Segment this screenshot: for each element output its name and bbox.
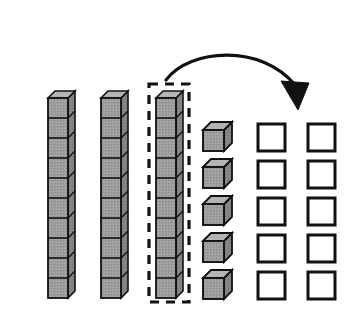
unit-cube-1[interactable] bbox=[203, 122, 232, 151]
ten-rod-2[interactable] bbox=[101, 91, 128, 298]
cube-front-face bbox=[203, 130, 224, 151]
empty-square[interactable] bbox=[258, 161, 285, 188]
ten-rod-1[interactable] bbox=[48, 91, 75, 298]
empty-square[interactable] bbox=[308, 272, 335, 299]
unit-cube-4[interactable] bbox=[203, 233, 232, 262]
cube-front-face bbox=[203, 278, 224, 299]
empty-square[interactable] bbox=[308, 198, 335, 225]
empty-square[interactable] bbox=[258, 235, 285, 262]
cube-front-face bbox=[203, 241, 224, 262]
unit-cube-5[interactable] bbox=[203, 270, 232, 299]
empty-square[interactable] bbox=[308, 124, 335, 151]
unit-cube-3[interactable] bbox=[203, 196, 232, 225]
empty-square[interactable] bbox=[308, 235, 335, 262]
cube-front-face bbox=[203, 167, 224, 188]
empty-squares-column-2 bbox=[308, 124, 335, 299]
cube-front-face bbox=[203, 204, 224, 225]
ten-rod-3-selected[interactable] bbox=[156, 91, 183, 298]
empty-square[interactable] bbox=[258, 198, 285, 225]
unit-cube-2[interactable] bbox=[203, 159, 232, 188]
empty-square[interactable] bbox=[308, 161, 335, 188]
base-ten-blocks-diagram: Base ten blocks regrouping: one rod of t… bbox=[0, 0, 349, 320]
empty-squares-column-1 bbox=[258, 124, 285, 299]
blocks-layer bbox=[0, 0, 349, 320]
arrow-curve bbox=[166, 55, 295, 85]
empty-square[interactable] bbox=[258, 124, 285, 151]
arrow-head-icon bbox=[281, 81, 309, 110]
empty-square[interactable] bbox=[258, 272, 285, 299]
